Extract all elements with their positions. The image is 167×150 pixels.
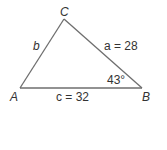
vertex-label-b: B bbox=[142, 90, 150, 104]
vertex-label-a: A bbox=[9, 90, 18, 104]
triangle-diagram: C A B b a = 28 c = 32 43° bbox=[0, 0, 167, 150]
vertex-label-c: C bbox=[60, 5, 69, 19]
side-label-b: b bbox=[33, 39, 40, 53]
side-b-line bbox=[20, 19, 64, 88]
side-label-a: a = 28 bbox=[104, 39, 138, 53]
angle-label-b: 43° bbox=[107, 73, 125, 87]
side-a-line bbox=[64, 19, 142, 88]
side-label-c: c = 32 bbox=[56, 90, 89, 104]
